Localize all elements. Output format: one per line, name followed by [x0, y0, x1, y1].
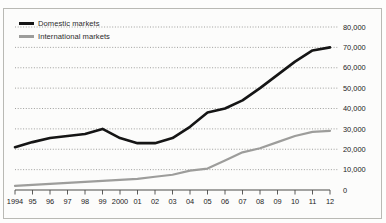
legend-item-domestic: Domestic markets [19, 18, 149, 29]
x-tick-label: 98 [81, 197, 89, 206]
legend-item-international: International markets [19, 31, 149, 42]
gridlines-group [15, 27, 338, 170]
x-tick-label: 97 [63, 197, 71, 206]
chart-legend: Domestic markets International markets [19, 18, 149, 44]
y-tick-label: 10,000 [343, 165, 366, 174]
x-tick-label: 11 [309, 197, 317, 206]
x-tick-label: 99 [98, 197, 106, 206]
y-tick-label: 40,000 [343, 104, 366, 113]
x-tick-label: 12 [326, 197, 334, 206]
y-tick-label: 0 [343, 186, 347, 195]
x-tick-label: 07 [238, 197, 246, 206]
x-tick-label: 95 [28, 197, 36, 206]
x-tick-label: 1994 [7, 197, 23, 206]
legend-label-international: International markets [38, 32, 110, 41]
y-tick-label: 20,000 [343, 145, 366, 154]
chart-figure: 010,00020,00030,00040,00050,00060,00070,… [0, 0, 386, 223]
x-tick-label: 01 [133, 197, 141, 206]
x-tick-label: 05 [203, 197, 211, 206]
x-tick-label: 02 [151, 197, 159, 206]
y-tick-label: 70,000 [343, 43, 366, 52]
x-tick-label: 96 [46, 197, 54, 206]
x-tick-label: 04 [186, 197, 194, 206]
x-axis-tick-labels: 1994959697989920000102030405060708091011… [7, 197, 334, 206]
series-line-domestic-markets [15, 47, 330, 147]
y-tick-label: 30,000 [343, 125, 366, 134]
x-tick-label: 2000 [112, 197, 128, 206]
y-axis-tick-labels: 010,00020,00030,00040,00050,00060,00070,… [343, 23, 366, 195]
x-tick-label: 08 [256, 197, 264, 206]
y-tick-label: 60,000 [343, 63, 366, 72]
x-tick-label: 06 [221, 197, 229, 206]
x-axis-group [15, 190, 330, 195]
x-tick-label: 10 [291, 197, 299, 206]
legend-swatch-domestic-icon [19, 22, 34, 25]
y-tick-label: 80,000 [343, 23, 366, 32]
legend-swatch-international-icon [19, 35, 34, 38]
x-tick-label: 03 [168, 197, 176, 206]
y-tick-label: 50,000 [343, 84, 366, 93]
legend-label-domestic: Domestic markets [38, 19, 100, 28]
x-tick-label: 09 [273, 197, 281, 206]
